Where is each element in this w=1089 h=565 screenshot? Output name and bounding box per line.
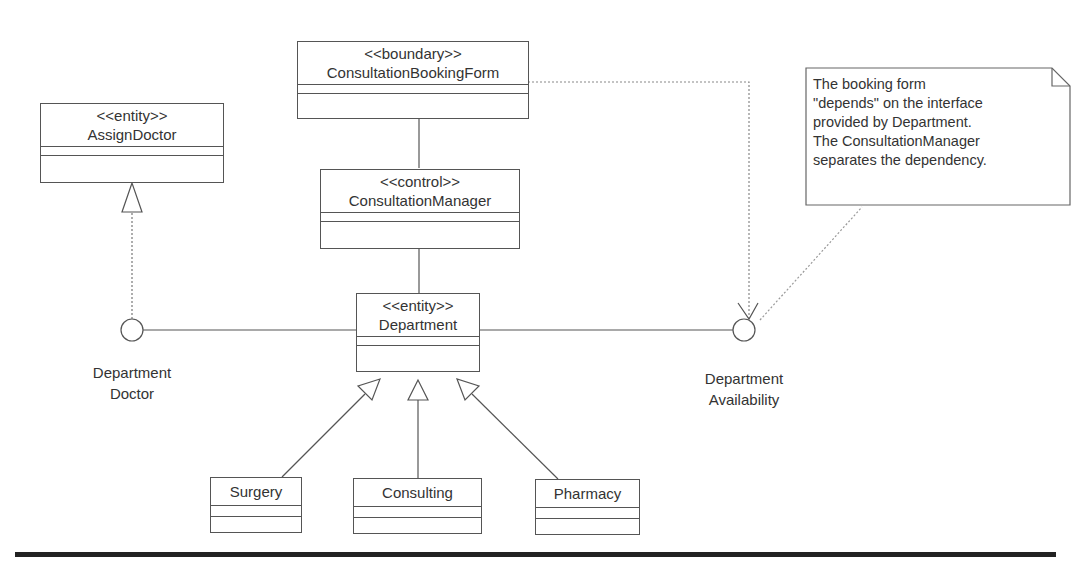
class-consulting[interactable]: Consulting <box>353 478 482 534</box>
horizontal-rule <box>15 552 1056 557</box>
operations-compartment <box>41 155 223 172</box>
dependency-line <box>528 82 749 318</box>
note-anchor-line <box>760 207 862 320</box>
generalization-line <box>282 394 365 477</box>
class-name: Surgery <box>211 482 301 501</box>
class-name: Department <box>357 315 479 334</box>
class-name: AssignDoctor <box>41 125 223 144</box>
operations-compartment <box>298 93 528 106</box>
class-consultation-manager[interactable]: <<control>> ConsultationManager <box>320 169 520 249</box>
attributes-compartment <box>354 506 481 517</box>
attributes-compartment <box>211 505 301 516</box>
interface-circle-icon <box>733 319 755 341</box>
stereotype-label: <<entity>> <box>357 296 479 315</box>
operations-compartment <box>536 518 639 533</box>
class-name: Pharmacy <box>536 484 639 503</box>
interface-label-department-availability: Department Availability <box>674 368 814 410</box>
note-text: The booking form "depends" on the interf… <box>813 75 1063 170</box>
attributes-compartment <box>41 146 223 155</box>
class-pharmacy[interactable]: Pharmacy <box>535 479 640 535</box>
class-name: ConsultationManager <box>321 191 519 210</box>
stereotype-label: <<control>> <box>321 172 519 191</box>
attributes-compartment <box>321 212 519 221</box>
attributes-compartment <box>536 507 639 518</box>
class-assign-doctor[interactable]: <<entity>> AssignDoctor <box>40 103 224 183</box>
class-name: ConsultationBookingForm <box>298 63 528 82</box>
stereotype-label: <<entity>> <box>41 106 223 125</box>
operations-compartment <box>211 516 301 531</box>
class-surgery[interactable]: Surgery <box>210 477 302 533</box>
dependency-arrowhead-icon <box>738 303 758 319</box>
generalization-arrowhead-icon <box>408 380 428 400</box>
class-name: Consulting <box>354 483 481 502</box>
realization-arrowhead-icon <box>122 183 142 212</box>
class-consultation-booking-form[interactable]: <<boundary>> ConsultationBookingForm <box>297 41 529 119</box>
class-department[interactable]: <<entity>> Department <box>356 293 480 372</box>
generalization-line <box>472 394 558 479</box>
interface-circle-icon <box>121 319 143 341</box>
generalization-arrowhead-icon <box>358 379 380 400</box>
attributes-compartment <box>298 84 528 93</box>
attributes-compartment <box>357 336 479 345</box>
operations-compartment <box>357 345 479 361</box>
operations-compartment <box>321 221 519 238</box>
operations-compartment <box>354 517 481 532</box>
stereotype-label: <<boundary>> <box>298 44 528 63</box>
interface-label-department-doctor: Department Doctor <box>62 362 202 404</box>
